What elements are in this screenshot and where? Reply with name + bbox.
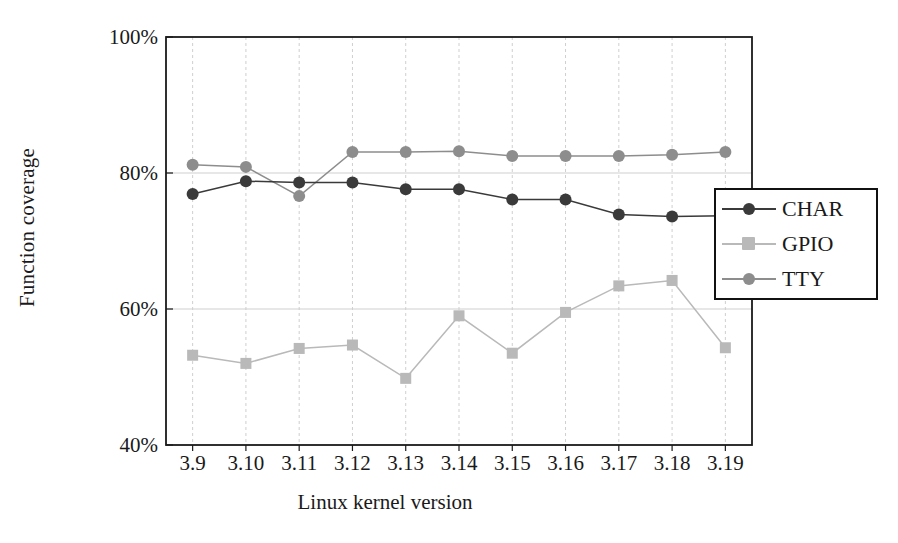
legend-item-tty[interactable]: TTY bbox=[716, 264, 880, 294]
x-tick-label: 3.10 bbox=[228, 451, 265, 476]
x-axis-title: Linux kernel version bbox=[0, 490, 770, 515]
x-tick-label: 3.16 bbox=[547, 451, 584, 476]
legend-label-tty: TTY bbox=[782, 268, 825, 290]
legend-label-char: CHAR bbox=[782, 198, 843, 220]
x-axis-tick-labels: 3.93.103.113.123.133.143.153.163.173.183… bbox=[0, 451, 898, 481]
chart-legend: CHAR GPIO TTY bbox=[714, 188, 878, 300]
legend-marker-char bbox=[722, 197, 776, 221]
x-tick-label: 3.18 bbox=[654, 451, 691, 476]
x-tick-label: 3.17 bbox=[600, 451, 637, 476]
x-tick-label: 3.9 bbox=[180, 451, 206, 476]
legend-item-gpio[interactable]: GPIO bbox=[716, 229, 880, 259]
chart-figure: Function coverage 40%60%80%100% 3.93.103… bbox=[0, 0, 898, 543]
x-tick-label: 3.15 bbox=[494, 451, 531, 476]
x-tick-label: 3.12 bbox=[334, 451, 371, 476]
x-tick-label: 3.11 bbox=[281, 451, 317, 476]
legend-marker-tty bbox=[722, 267, 776, 291]
legend-marker-gpio bbox=[722, 232, 776, 256]
legend-label-gpio: GPIO bbox=[782, 233, 833, 255]
x-tick-label: 3.13 bbox=[387, 451, 424, 476]
x-tick-label: 3.14 bbox=[441, 451, 478, 476]
x-tick-label: 3.19 bbox=[707, 451, 744, 476]
legend-item-char[interactable]: CHAR bbox=[716, 194, 880, 224]
